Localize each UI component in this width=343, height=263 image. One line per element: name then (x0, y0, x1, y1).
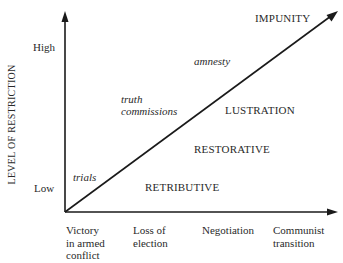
x-tick-line: Communist (273, 224, 324, 237)
y-axis-arrowhead-icon (62, 11, 69, 22)
x-tick-loss-of-election: Loss of election (133, 224, 168, 249)
label-truth: truth (121, 93, 142, 105)
x-tick-line: Negotiation (202, 224, 254, 237)
region-lustration: LUSTRATION (225, 104, 295, 116)
region-retributive: RETRIBUTIVE (145, 181, 219, 193)
x-tick-negotiation: Negotiation (202, 224, 254, 237)
label-commissions: commissions (121, 105, 177, 117)
label-trials: trials (73, 171, 96, 183)
x-tick-line: conflict (66, 249, 105, 262)
x-tick-line: election (133, 237, 168, 250)
label-amnesty: amnesty (194, 55, 230, 67)
x-tick-line: Loss of (133, 224, 168, 237)
x-tick-line: Victory (66, 224, 105, 237)
region-impunity: IMPUNITY (255, 12, 310, 24)
x-tick-line: in armed (66, 237, 105, 250)
y-axis-label: LEVEL OF RESTRICTION (6, 75, 17, 185)
x-tick-communist-transition: Communist transition (273, 224, 324, 249)
x-tick-victory: Victory in armed conflict (66, 224, 105, 262)
x-tick-line: transition (273, 237, 324, 250)
y-tick-high: High (33, 41, 55, 53)
y-tick-low: Low (34, 182, 54, 194)
region-restorative: RESTORATIVE (194, 143, 270, 155)
diagonal-arrowhead-icon (327, 11, 339, 22)
x-axis-arrowhead-icon (327, 209, 338, 216)
